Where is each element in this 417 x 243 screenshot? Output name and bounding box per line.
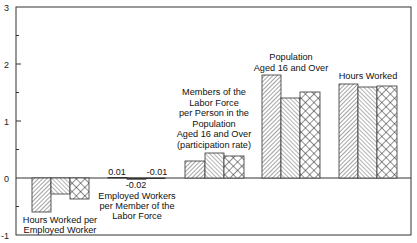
group-label-population: Population <box>269 52 312 62</box>
y-axis <box>16 36 21 207</box>
group-label-participation-3: per Person in the <box>179 108 249 118</box>
bar-group-hours-per-worker <box>32 178 89 212</box>
bar <box>108 177 127 178</box>
bar <box>262 75 281 178</box>
group-label-participation-5: Aged 16 and Over <box>177 129 252 139</box>
y-tick-3: 3 <box>4 3 9 13</box>
value-label: 0.01 <box>108 167 126 177</box>
group-label-employed-per-labor-2: per Member of the <box>99 201 174 211</box>
bar-group-population <box>262 75 320 178</box>
group-label-hours-per-worker-2: Employed Worker <box>24 225 97 235</box>
bar <box>300 92 320 178</box>
bar <box>185 161 205 178</box>
value-label: -0.02 <box>126 180 147 190</box>
bar-group-participation <box>185 153 244 178</box>
value-label: -0.01 <box>147 167 168 177</box>
bar <box>205 153 224 178</box>
bar-group-hours-worked <box>339 84 397 178</box>
group-label-participation-2: Labor Force <box>189 98 239 108</box>
y-tick-0: 0 <box>4 174 9 184</box>
group-label-participation-6: (participation rate) <box>177 140 251 150</box>
y-tick-2: 2 <box>4 60 9 70</box>
group-label-participation-4: Population <box>192 119 235 129</box>
bar-group-employed-per-labor <box>108 177 165 179</box>
y-tick-neg1: -1 <box>1 231 9 241</box>
group-label-employed-per-labor-3: Labor Force <box>112 211 162 221</box>
bar <box>32 178 51 212</box>
bar <box>224 156 244 178</box>
bar <box>339 84 358 178</box>
group-label-hours-per-worker: Hours Worked per <box>23 215 97 225</box>
bar <box>377 86 397 178</box>
bar-chart: 3 2 1 0 -1 Hours Worked per Employed Wor… <box>0 0 417 243</box>
group-label-employed-per-labor: Employed Workers <box>98 191 176 201</box>
group-label-population-2: Aged 16 and Over <box>254 63 329 73</box>
bar <box>281 98 300 178</box>
bar <box>146 178 165 179</box>
y-tick-1: 1 <box>4 117 9 127</box>
group-label-hours-worked: Hours Worked <box>339 71 398 81</box>
bar <box>51 178 70 194</box>
group-label-participation: Members of the <box>182 87 246 97</box>
bar <box>358 87 377 178</box>
bar <box>70 178 89 199</box>
